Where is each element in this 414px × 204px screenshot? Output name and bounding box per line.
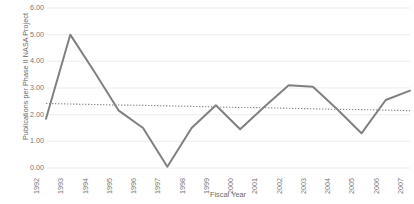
x-tick-label: 1995 <box>102 134 111 168</box>
x-tick-label: 2005 <box>344 134 353 168</box>
x-tick-label: 2006 <box>369 134 378 168</box>
x-tick-label: 1994 <box>78 134 87 168</box>
x-tick-label: 1996 <box>126 134 135 168</box>
y-tick-label: 5.00 <box>20 31 44 38</box>
y-tick-label: 6.00 <box>20 4 44 11</box>
y-tick-label: 3.00 <box>20 84 44 91</box>
x-tick-label: 1999 <box>199 134 208 168</box>
trendline <box>46 103 410 110</box>
x-tick-label: 1992 <box>29 134 38 168</box>
line-chart: Publications per Phase II NASA Project 0… <box>0 0 414 204</box>
x-tick-label: 2007 <box>393 134 402 168</box>
x-tick-label: 1998 <box>175 134 184 168</box>
x-tick-label: 2004 <box>320 134 329 168</box>
y-tick-label: 2.00 <box>20 111 44 118</box>
x-axis-title: Fiscal Year <box>46 190 410 199</box>
x-tick-label: 2000 <box>223 134 232 168</box>
x-tick-label: 2001 <box>247 134 256 168</box>
x-tick-label: 1997 <box>150 134 159 168</box>
y-tick-label: 4.00 <box>20 57 44 64</box>
x-tick-label: 1993 <box>53 134 62 168</box>
x-tick-label: 2003 <box>296 134 305 168</box>
y-axis-tick-labels: 0.001.002.003.004.005.006.00 <box>16 0 44 204</box>
x-tick-label: 2002 <box>272 134 281 168</box>
